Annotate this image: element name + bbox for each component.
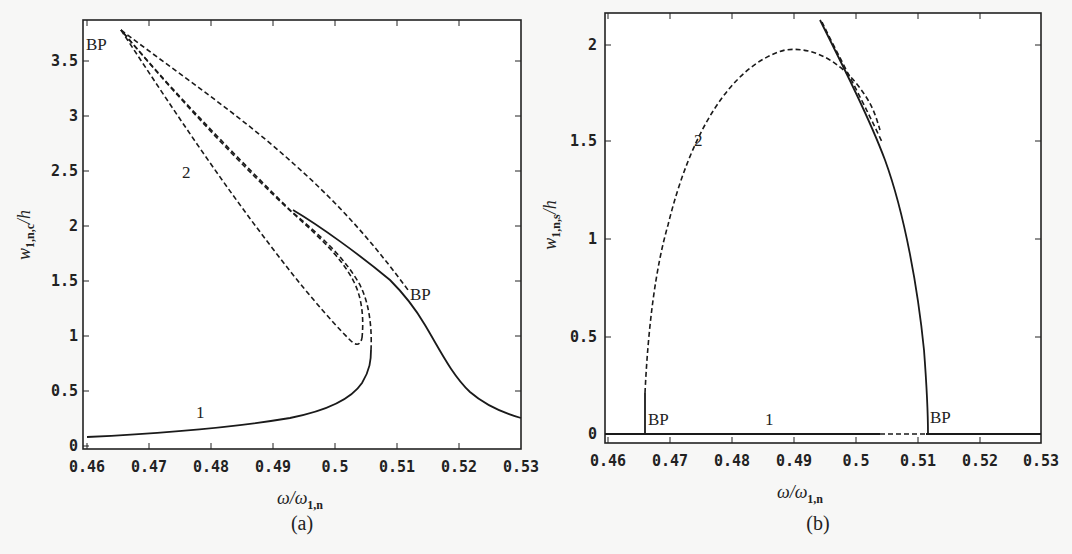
y-tick-label: 1.5 [570,132,597,150]
y-tick-label: 1 [69,327,78,345]
x-tick-label: 0.53 [503,458,539,476]
y-tick-label: 0 [588,425,597,443]
x-tick-label: 0.47 [652,452,688,470]
curve-label-1-a: 1 [196,403,205,422]
x-tick-label: 0.5 [842,452,869,470]
bp-label-right-b: BP [930,408,951,427]
x-axis-title-a: ω/ω1,n [277,488,323,512]
plot-frame-b [605,13,1041,443]
y-tick-label: 0.5 [51,382,78,400]
y-tick-labels-b: 0 0.5 1 1.5 2 [570,36,597,443]
x-tick-label: 0.49 [255,458,291,476]
y-tick-label: 1 [588,230,597,248]
x-tick-labels-b: 0.46 0.47 0.48 0.49 0.5 0.51 0.52 0.53 [590,452,1059,470]
x-tick-label: 0.48 [714,452,750,470]
y-axis-title-a: w1,n,c/h [14,210,37,260]
curve-label-2-a: 2 [182,163,191,182]
y-tick-label: 2 [69,217,78,235]
panel-caption-b: (b) [806,512,829,535]
curve-label-2-b: 2 [694,131,703,150]
panel-b: 0.46 0.47 0.48 0.49 0.5 0.51 0.52 0.53 0… [540,13,1059,535]
x-tick-label: 0.51 [379,458,415,476]
y-axis-title-b: w1,n,s/h [540,200,563,249]
figure: 0.46 0.47 0.48 0.49 0.5 0.51 0.52 0.53 0… [0,0,1072,554]
y-tick-label: 0 [69,437,78,455]
panel-a: 0.46 0.47 0.48 0.49 0.5 0.51 0.52 0.53 0… [14,20,539,535]
x-tick-label: 0.52 [441,458,477,476]
x-tick-label: 0.46 [590,452,626,470]
y-tick-label: 1.5 [51,272,78,290]
y-tick-label: 3.5 [51,52,78,70]
y-tick-label: 3 [69,107,78,125]
panel-caption-a: (a) [291,512,313,535]
x-tick-label: 0.47 [131,458,167,476]
curve-label-1-b: 1 [765,410,774,429]
y-tick-labels-a: 0 0.5 1 1.5 2 2.5 3 3.5 [51,52,78,455]
y-tick-label: 2.5 [51,162,78,180]
bp-label-left-b: BP [648,410,669,429]
x-tick-labels-a: 0.46 0.47 0.48 0.49 0.5 0.51 0.52 0.53 [69,458,539,476]
y-tick-label: 2 [588,36,597,54]
x-tick-label: 0.53 [1023,452,1059,470]
x-tick-label: 0.51 [900,452,936,470]
x-tick-label: 0.48 [193,458,229,476]
x-axis-title-b: ω/ω1,n [777,482,823,506]
bp-label-right-a: BP [410,285,431,304]
x-tick-label: 0.5 [321,458,348,476]
plot-frame-a [83,20,521,449]
bp-label-top-a: BP [86,35,107,54]
x-tick-label: 0.52 [962,452,998,470]
x-tick-label: 0.49 [776,452,812,470]
y-tick-label: 0.5 [570,328,597,346]
x-tick-label: 0.46 [69,458,105,476]
